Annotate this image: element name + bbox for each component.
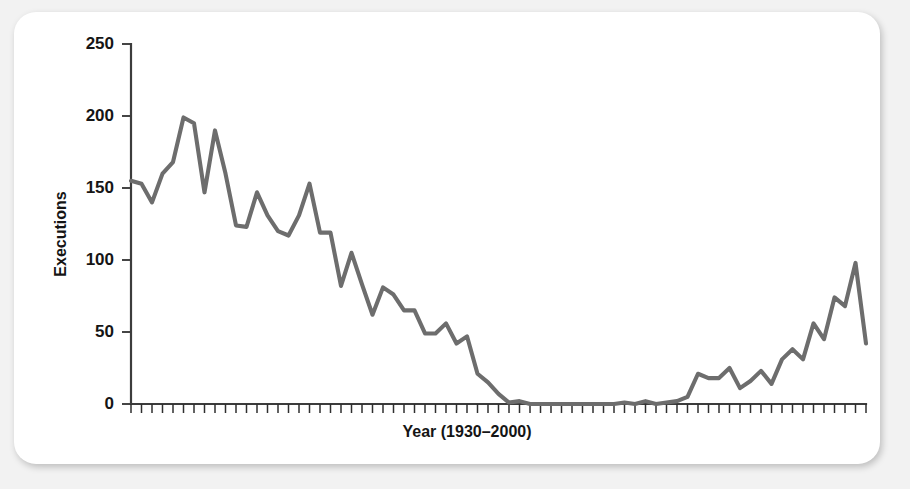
y-axis: 050100150200250 xyxy=(86,34,131,413)
y-axis-title: Executions xyxy=(52,191,69,276)
y-tick-label-0: 0 xyxy=(105,394,114,413)
y-tick-label-250: 250 xyxy=(86,34,114,53)
x-axis xyxy=(131,404,866,413)
y-tick-label-200: 200 xyxy=(86,106,114,125)
y-tick-label-100: 100 xyxy=(86,250,114,269)
data-series-executions xyxy=(131,117,866,404)
executions-line-chart: 050100150200250 Year (1930–2000) Executi… xyxy=(14,12,880,464)
chart-svg: 050100150200250 Year (1930–2000) Executi… xyxy=(14,12,880,464)
y-tick-label-150: 150 xyxy=(86,178,114,197)
executions-polyline xyxy=(131,117,866,404)
x-axis-title: Year (1930–2000) xyxy=(403,423,532,440)
y-tick-label-50: 50 xyxy=(95,322,114,341)
figure-card: 050100150200250 Year (1930–2000) Executi… xyxy=(14,12,880,464)
